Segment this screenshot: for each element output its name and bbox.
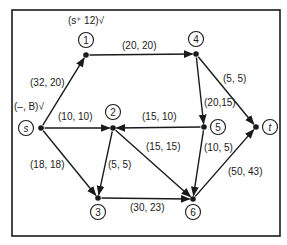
- node-3-dot: [95, 195, 101, 201]
- edge-label-2-6: (15, 15): [146, 141, 180, 152]
- edge-label-6-t: (50, 43): [228, 166, 262, 177]
- edge-label-5-6: (10, 5): [204, 142, 233, 153]
- node-6-dot: [190, 196, 196, 202]
- edge-5-2: [116, 127, 200, 128]
- edge-label-3-6: (30, 23): [130, 202, 164, 213]
- node-6-label: 6: [190, 207, 196, 218]
- edge-1-4: [89, 54, 192, 55]
- nodes-group: s123456t: [19, 32, 278, 220]
- node-5-dot: [201, 124, 207, 130]
- node-1-label: 1: [83, 35, 89, 46]
- edge-label-2-3: (5, 5): [108, 159, 131, 170]
- edge-4-t: [198, 57, 254, 125]
- edge-4-5: [196, 57, 203, 123]
- edge-label-s-3: (18, 18): [30, 159, 64, 170]
- edge-label-4-5: (20,15): [204, 97, 236, 108]
- node-4-label: 4: [193, 34, 199, 45]
- node-2-dot: [110, 125, 116, 131]
- node-2-label: 2: [110, 107, 116, 118]
- node-5-label: 5: [215, 122, 221, 133]
- edge-label-1-4: (20, 20): [122, 40, 156, 51]
- edge-6-t: [195, 130, 253, 197]
- diagram-canvas: (32, 20)(10, 10)(18, 18)(20, 20)(15, 10)…: [0, 0, 287, 245]
- node-s-dot: [38, 125, 44, 131]
- node-1-dot: [83, 52, 89, 58]
- edge-3-6: [101, 198, 189, 199]
- flow-network-diagram: (32, 20)(10, 10)(18, 18)(20, 20)(15, 10)…: [0, 0, 287, 245]
- node-4-dot: [193, 51, 199, 57]
- node-t-dot: [253, 124, 259, 130]
- edge-label-s-2: (10, 10): [58, 111, 92, 122]
- node1-label: (s⁺ 12)√: [68, 15, 105, 26]
- edge-labels-group: (32, 20)(10, 10)(18, 18)(20, 20)(15, 10)…: [30, 40, 262, 213]
- node-s-label: s: [24, 123, 29, 134]
- source-label: (–, B)√: [14, 101, 44, 112]
- edge-label-5-2: (15, 10): [142, 111, 176, 122]
- node-3-label: 3: [95, 207, 101, 218]
- edge-label-4-t: (5, 5): [223, 73, 246, 84]
- edge-5-6: [194, 130, 204, 195]
- edge-label-s-1: (32, 20): [30, 77, 64, 88]
